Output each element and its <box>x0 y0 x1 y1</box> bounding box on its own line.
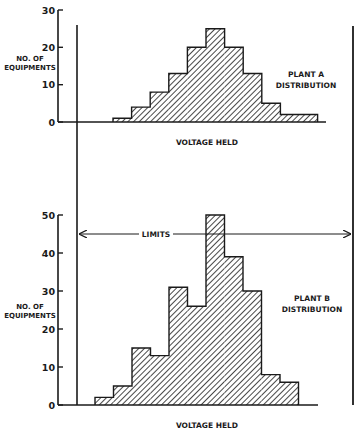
y-tick-label-plant-b: 0 <box>48 400 55 411</box>
y-label-plant-a-line1: NO. OF <box>16 55 44 63</box>
y-tick-label-plant-b: 50 <box>42 210 56 221</box>
bar-plant-b-10 <box>262 375 281 405</box>
y-tick-label-plant-a: 10 <box>42 79 56 90</box>
chart-plant-b: 01020304050 NO. OF EQUIPMENTS PLANT B DI… <box>4 210 342 431</box>
y-tick-label-plant-b: 10 <box>42 362 56 373</box>
y-tick-label-plant-a: 0 <box>48 117 55 128</box>
y-tick-label-plant-b: 30 <box>42 286 56 297</box>
bar-plant-b-3 <box>132 348 151 405</box>
y-label-plant-a-line2: EQUIPMENTS <box>4 64 56 72</box>
y-tick-label-plant-a: 20 <box>42 42 56 53</box>
bar-plant-b-4 <box>151 356 170 405</box>
bar-plant-a-11 <box>299 115 318 123</box>
y-tick-label-plant-b: 20 <box>42 324 56 335</box>
figure: 0102030 NO. OF EQUIPMENTS PLANT A DISTRI… <box>0 0 356 436</box>
bars-plant-b <box>95 215 299 405</box>
chart-plant-a: 0102030 NO. OF EQUIPMENTS PLANT A DISTRI… <box>4 5 336 148</box>
y-ticks-plant-b: 01020304050 <box>42 210 63 411</box>
bar-plant-a-5 <box>187 47 206 122</box>
limits-label: LIMITS <box>142 230 170 239</box>
bar-plant-b-7 <box>206 215 225 405</box>
bar-plant-b-2 <box>114 386 133 405</box>
title-plant-b-line1: PLANT B <box>294 294 330 303</box>
title-plant-a-line2: DISTRIBUTION <box>276 81 336 90</box>
bar-plant-b-6 <box>188 306 207 405</box>
bar-plant-a-9 <box>262 103 281 122</box>
bar-plant-a-3 <box>150 92 169 122</box>
bar-plant-a-2 <box>132 107 151 122</box>
bar-plant-b-8 <box>225 257 244 405</box>
bar-plant-a-10 <box>280 115 299 123</box>
x-label-plant-b: VOLTAGE HELD <box>176 421 238 430</box>
y-tick-label-plant-b: 40 <box>42 248 56 259</box>
bar-plant-a-7 <box>225 47 244 122</box>
y-label-plant-b-line2: EQUIPMENTS <box>4 312 56 320</box>
bar-plant-b-5 <box>169 287 188 405</box>
bar-plant-b-1 <box>95 397 114 405</box>
bar-plant-a-4 <box>169 74 188 123</box>
bar-plant-a-8 <box>243 74 262 123</box>
bar-plant-a-6 <box>206 29 225 122</box>
bars-plant-a <box>113 29 318 122</box>
bar-plant-b-11 <box>280 382 299 405</box>
title-plant-b-line2: DISTRIBUTION <box>282 305 342 314</box>
title-plant-a-line1: PLANT A <box>288 70 324 79</box>
x-label-plant-a: VOLTAGE HELD <box>176 138 238 147</box>
bar-plant-b-9 <box>243 291 262 405</box>
y-label-plant-b-line1: NO. OF <box>16 303 44 311</box>
y-tick-label-plant-a: 30 <box>42 5 56 16</box>
